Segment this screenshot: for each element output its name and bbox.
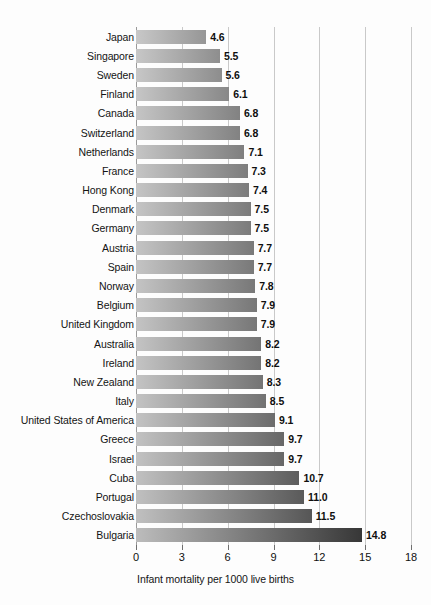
bar [136, 509, 312, 523]
value-label: 7.3 [252, 165, 266, 177]
category-label: Japan [106, 31, 134, 43]
bar-row: Austria7.7 [0, 238, 431, 257]
bar-row: Switzerland6.8 [0, 123, 431, 142]
bar [136, 183, 249, 197]
category-label: Singapore [87, 50, 134, 62]
value-label: 8.2 [265, 357, 279, 369]
bar-row: Ireland8.2 [0, 353, 431, 372]
bar-row: Japan4.6 [0, 27, 431, 46]
bar-row: Singapore5.5 [0, 46, 431, 65]
category-label: Canada [98, 107, 134, 119]
x-tick-label-3: 3 [179, 551, 185, 564]
value-label: 7.1 [248, 146, 262, 158]
category-label: Greece [100, 433, 134, 445]
x-tick-mark-18 [411, 545, 412, 550]
value-label: 5.6 [226, 69, 240, 81]
category-label: Denmark [92, 203, 134, 215]
value-label: 8.2 [265, 338, 279, 350]
bar [136, 337, 261, 351]
category-label: Ireland [103, 357, 134, 369]
bar [136, 298, 257, 312]
x-tick-label-12: 12 [313, 551, 325, 564]
value-label: 10.7 [303, 472, 323, 484]
bar [136, 164, 248, 178]
bar [136, 49, 220, 63]
bar [136, 356, 261, 370]
bar-row: Norway7.8 [0, 276, 431, 295]
category-label: Czechoslovakia [62, 510, 134, 522]
bar [136, 221, 251, 235]
bar [136, 145, 244, 159]
x-tick-mark-0 [136, 545, 137, 550]
value-label: 7.4 [253, 184, 267, 196]
category-label: United States of America [21, 414, 134, 426]
x-tick-mark-9 [274, 545, 275, 550]
value-label: 7.7 [258, 242, 272, 254]
bar-row: France7.3 [0, 161, 431, 180]
category-label: France [102, 165, 134, 177]
category-label: Norway [99, 280, 134, 292]
category-label: Cuba [109, 472, 134, 484]
category-label: Spain [108, 261, 134, 273]
value-label: 7.5 [255, 203, 269, 215]
bar-row: Spain7.7 [0, 257, 431, 276]
category-label: Australia [94, 338, 134, 350]
bar [136, 394, 266, 408]
x-tick-label-6: 6 [225, 551, 231, 564]
value-label: 7.5 [255, 222, 269, 234]
value-label: 8.5 [270, 395, 284, 407]
value-label: 6.8 [244, 127, 258, 139]
category-label: Bulgaria [96, 529, 134, 541]
bar [136, 30, 206, 44]
bar [136, 87, 229, 101]
bar-row: Belgium7.9 [0, 296, 431, 315]
x-tick-mark-12 [319, 545, 320, 550]
category-label: Hong Kong [82, 184, 134, 196]
bar [136, 202, 251, 216]
x-tick-mark-3 [182, 545, 183, 550]
bar [136, 490, 304, 504]
bar [136, 317, 257, 331]
value-label: 5.5 [224, 50, 238, 62]
bar [136, 375, 263, 389]
category-label: United Kingdom [61, 318, 134, 330]
category-label: Germany [92, 222, 134, 234]
value-label: 11.0 [308, 491, 327, 503]
value-label: 14.8 [366, 529, 386, 541]
bar [136, 452, 284, 466]
bar [136, 432, 284, 446]
bar-row: Portugal11.0 [0, 487, 431, 506]
bar-row: Netherlands7.1 [0, 142, 431, 161]
value-label: 4.6 [210, 31, 224, 43]
bar-row: Canada6.8 [0, 104, 431, 123]
x-tick-label-9: 9 [270, 551, 276, 564]
category-label: Finland [100, 88, 134, 100]
category-label: Austria [102, 242, 134, 254]
bar-row: Sweden5.6 [0, 65, 431, 84]
bar-row: Denmark7.5 [0, 200, 431, 219]
category-label: Belgium [97, 299, 134, 311]
bar-row: Cuba10.7 [0, 468, 431, 487]
bar [136, 471, 299, 485]
bar-row: Germany7.5 [0, 219, 431, 238]
value-label: 7.8 [259, 280, 273, 292]
bar [136, 528, 362, 542]
bar [136, 68, 222, 82]
bar-row: Italy8.5 [0, 392, 431, 411]
category-label: Netherlands [78, 146, 134, 158]
value-label: 7.7 [258, 261, 272, 273]
value-label: 11.5 [316, 510, 335, 522]
bar-row: Israel9.7 [0, 449, 431, 468]
x-tick-mark-6 [228, 545, 229, 550]
bar-row: Finland6.1 [0, 85, 431, 104]
bar-row: United Kingdom7.9 [0, 315, 431, 334]
bar-row: Australia8.2 [0, 334, 431, 353]
value-label: 9.7 [288, 433, 302, 445]
category-label: Italy [115, 395, 134, 407]
category-label: Switzerland [81, 127, 134, 139]
category-label: New Zealand [73, 376, 134, 388]
value-label: 9.7 [288, 453, 302, 465]
bar-rows: Japan4.6Singapore5.5Sweden5.6Finland6.1C… [0, 27, 431, 545]
x-axis-title: Infant mortality per 1000 live births [0, 573, 431, 586]
bar-row: New Zealand8.3 [0, 372, 431, 391]
